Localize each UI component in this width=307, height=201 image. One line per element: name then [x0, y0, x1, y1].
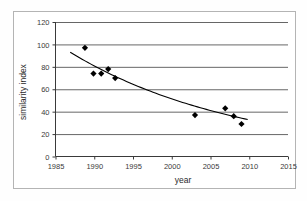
y-tick-labels: 020406080100120 [37, 18, 50, 162]
x-tick-label: 2015 [280, 162, 297, 171]
x-tick-label: 2005 [203, 162, 220, 171]
chart-figure: 020406080100120 198519901995200020052010… [0, 0, 307, 201]
gridlines [56, 23, 289, 135]
y-tick-label: 20 [41, 130, 49, 139]
y-tick-label: 40 [41, 108, 49, 117]
y-tick-label: 60 [41, 85, 49, 94]
data-point-marker [98, 70, 104, 76]
data-point-marker [82, 45, 88, 51]
x-tick-label: 1995 [125, 162, 142, 171]
x-tick-label: 2000 [164, 162, 181, 171]
scatter-plot: 020406080100120 198519901995200020052010… [0, 0, 307, 201]
trend-line [70, 52, 247, 119]
y-tick-label: 0 [45, 153, 49, 162]
data-point-marker [238, 121, 244, 127]
y-tick-label: 120 [37, 18, 50, 27]
x-tick-label: 1985 [48, 162, 65, 171]
data-point-marker [231, 113, 237, 119]
y-tick-label: 100 [37, 41, 50, 50]
data-points [82, 45, 245, 127]
data-point-marker [90, 70, 96, 76]
x-tick-labels: 1985199019952000200520102015 [48, 162, 297, 171]
x-tick-label: 1990 [86, 162, 103, 171]
x-axis-title: year [175, 175, 192, 185]
y-axis-title: similarity index [18, 63, 28, 119]
y-tick-label: 80 [41, 63, 49, 72]
x-tick-label: 2010 [241, 162, 258, 171]
data-point-marker [222, 105, 228, 111]
data-point-marker [192, 112, 198, 118]
